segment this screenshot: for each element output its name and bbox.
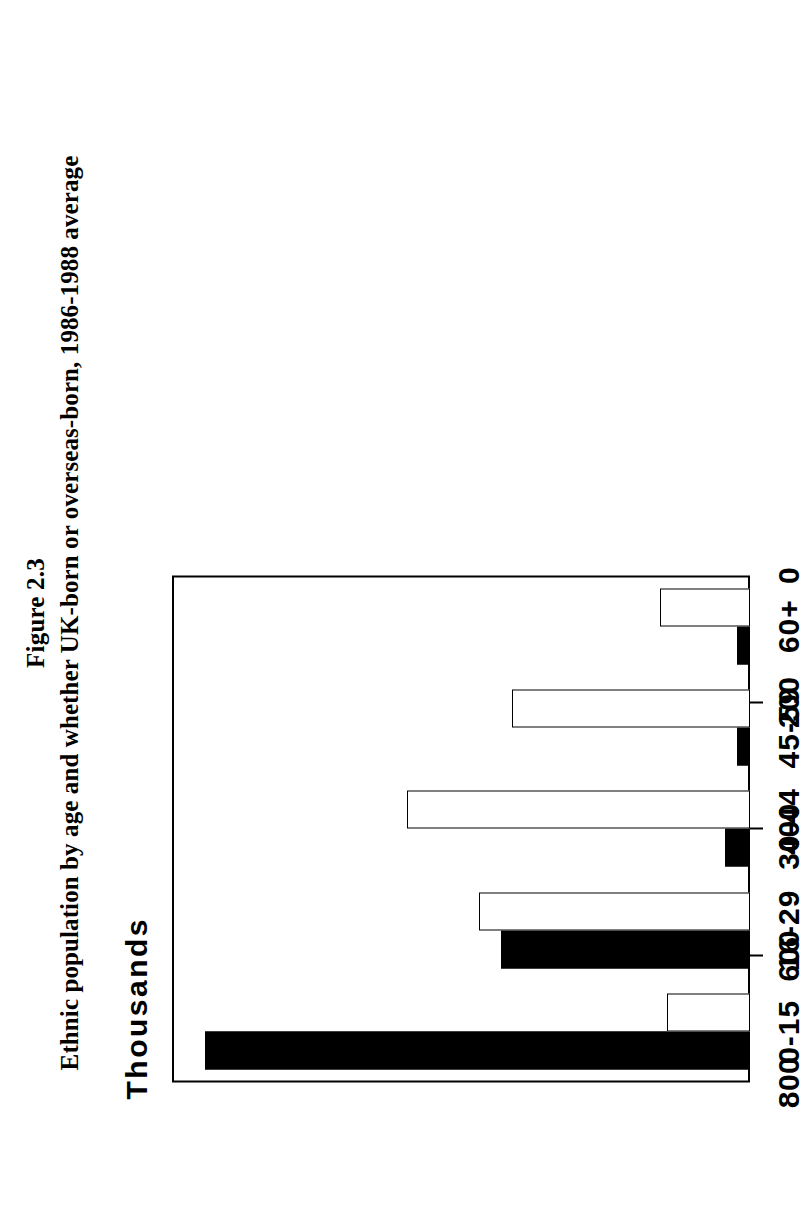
rotated-figure-canvas: Figure 2.3 Ethnic population by age and … [0, 0, 812, 1225]
figure-title: Ethnic population by age and whether UK-… [55, 0, 85, 1225]
bar-groups: 0-1516-2930-4445-5960+ [172, 575, 750, 1082]
category-label: 0-15 [772, 999, 806, 1063]
bar-overseas-born [512, 689, 750, 727]
value-tick-label: 800 [772, 1056, 806, 1108]
plot-area: 0-1516-2930-4445-5960+ 0200400600800 [172, 575, 750, 1082]
value-tick [750, 954, 763, 956]
figure-title-block: Figure 2.3 Ethnic population by age and … [22, 0, 85, 1225]
bar-overseas-born [660, 588, 750, 626]
value-tick-label: 0 [772, 566, 806, 583]
bar-group: 0-15 [172, 981, 750, 1082]
value-tick [750, 828, 763, 830]
bar-overseas-born [407, 790, 750, 828]
bar-group: 16-29 [172, 879, 750, 980]
bar-uk-born [725, 828, 750, 866]
category-label: 60+ [772, 599, 806, 653]
value-axis-units-label: Thousands [120, 916, 154, 1099]
value-tick-label: 200 [772, 676, 806, 728]
value-tick [750, 701, 763, 703]
bar-overseas-born [479, 892, 750, 930]
bar-uk-born [737, 626, 750, 664]
bar-group: 45-59 [172, 676, 750, 777]
value-tick-label: 600 [772, 929, 806, 981]
figure-number: Figure 2.3 [22, 0, 51, 1225]
bar-uk-born [501, 930, 750, 968]
bar-uk-born [737, 727, 750, 765]
bar-overseas-born [667, 993, 750, 1031]
value-tick-label: 400 [772, 803, 806, 855]
bar-uk-born [205, 1031, 750, 1069]
bar-group: 30-44 [172, 778, 750, 879]
bar-group: 60+ [172, 575, 750, 676]
